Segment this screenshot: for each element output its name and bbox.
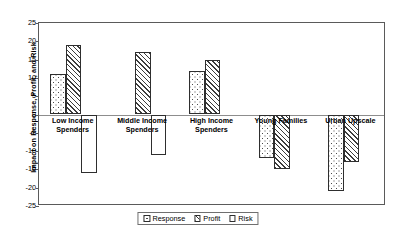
bar-groups [39, 23, 384, 204]
bar-group [50, 23, 97, 204]
bar-profit [205, 60, 221, 115]
bar-profit [66, 45, 82, 115]
y-tick-label: 20 [0, 38, 36, 45]
y-tick-mark [36, 206, 39, 207]
bar-group [328, 23, 375, 204]
bar-group [189, 23, 236, 204]
legend-swatch-icon [229, 215, 236, 222]
y-tick-label: -20 [0, 184, 36, 191]
y-tick-label: 15 [0, 56, 36, 63]
legend-label: Profit [203, 215, 220, 223]
chart-legend: ResponseProfitRisk [137, 212, 258, 225]
legend-label: Response [152, 215, 185, 223]
legend-label: Risk [238, 215, 252, 223]
legend-item-profit[interactable]: Profit [194, 215, 220, 223]
y-tick-label: 10 [0, 74, 36, 81]
category-label: Urban Upscale [295, 116, 396, 125]
category-label-line: Spenders [157, 125, 267, 134]
y-tick-label: 25 [0, 19, 36, 26]
y-tick-label: 5 [0, 93, 36, 100]
bar-group [120, 23, 167, 204]
legend-swatch-icon [143, 215, 150, 222]
bar-chart-figure: Impact on Response, Profit, and Risk 252… [0, 0, 396, 241]
bar-response [328, 115, 344, 192]
y-tick-label: -10 [0, 147, 36, 154]
bar-group [259, 23, 306, 204]
legend-swatch-icon [194, 215, 201, 222]
y-tick-label: -25 [0, 202, 36, 209]
bar-profit [135, 52, 151, 114]
legend-item-risk[interactable]: Risk [229, 215, 252, 223]
bar-response [50, 74, 66, 114]
y-tick-label: -15 [0, 166, 36, 173]
category-label-line: Urban Upscale [295, 116, 396, 125]
legend-item-response[interactable]: Response [143, 215, 185, 223]
plot-area: 2520151050-5-10-15-20-25 [38, 22, 385, 205]
bar-response [189, 71, 205, 115]
